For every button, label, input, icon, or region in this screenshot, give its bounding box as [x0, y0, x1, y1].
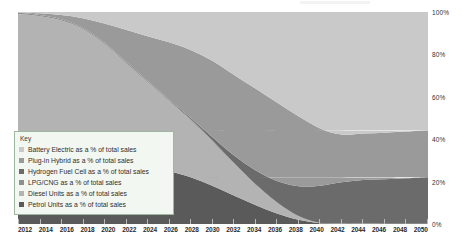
x-tickmark: [362, 219, 363, 224]
x-tickmark: [169, 219, 170, 224]
legend-swatch-icon: [19, 191, 24, 196]
x-axis-tick-2022: 2022: [122, 226, 136, 233]
legend-swatch-icon: [19, 147, 24, 152]
y-axis-tick-100: 100%: [432, 9, 449, 16]
x-tickmark: [319, 219, 320, 224]
legend-item-label: Battery Electric as a % of total sales: [28, 145, 136, 155]
x-axis-tick-2044: 2044: [351, 226, 365, 233]
x-tickmark: [61, 219, 62, 224]
y-axis: 100%80%60%40%20%0%: [430, 0, 462, 242]
legend-swatch-icon: [19, 158, 24, 163]
x-axis: 2012201420162018202020222024202620282030…: [18, 226, 428, 242]
y-axis-tick-0: 0%: [432, 221, 442, 228]
x-axis-tick-2048: 2048: [393, 226, 407, 233]
y-axis-tick-60: 60%: [432, 93, 445, 100]
x-tickmark: [255, 219, 256, 224]
x-axis-tick-2038: 2038: [289, 226, 303, 233]
x-axis-tick-2014: 2014: [39, 226, 53, 233]
legend-item-label: Hydrogen Fuel Cell as a % of total sales: [28, 167, 149, 177]
x-tickmark: [83, 219, 84, 224]
legend-item-plug_in_hybrid[interactable]: Plug-in Hybrid as a % of total sales: [19, 155, 169, 166]
x-axis-tick-2040: 2040: [310, 226, 324, 233]
legend-item-hydrogen_fuel_cell[interactable]: Hydrogen Fuel Cell as a % of total sales: [19, 166, 169, 177]
x-tickmark: [190, 219, 191, 224]
x-tickmark: [341, 219, 342, 224]
x-axis-tick-2018: 2018: [80, 226, 94, 233]
x-axis-tick-2012: 2012: [18, 226, 32, 233]
x-tickmark: [276, 219, 277, 224]
legend-item-label: Plug-in Hybrid as a % of total sales: [28, 156, 133, 166]
legend-item-lpg_cng[interactable]: LPG/CNG as a % of total sales: [19, 177, 169, 188]
legend-item-label: LPG/CNG as a % of total sales: [28, 178, 121, 188]
x-tickmark: [384, 219, 385, 224]
x-axis-tick-2050: 2050: [414, 226, 428, 233]
x-tickmark: [298, 219, 299, 224]
y-axis-tick-40: 40%: [432, 136, 445, 143]
x-tickmark: [18, 219, 19, 224]
legend-item-diesel_units[interactable]: Diesel Units as a % of total sales: [19, 188, 169, 199]
x-axis-tick-2020: 2020: [101, 226, 115, 233]
x-tickmarks: [18, 219, 428, 225]
x-axis-tick-2028: 2028: [185, 226, 199, 233]
scan-artifact: [300, 1, 370, 4]
x-tickmark: [126, 219, 127, 224]
y-axis-tick-20: 20%: [432, 178, 445, 185]
legend-item-label: Petrol Units as a % of total sales: [28, 200, 126, 210]
x-axis-tick-2032: 2032: [226, 226, 240, 233]
x-tickmark: [212, 219, 213, 224]
legend-title: Key: [20, 135, 169, 143]
x-axis-tick-2026: 2026: [164, 226, 178, 233]
legend: Key Battery Electric as a % of total sal…: [14, 131, 174, 215]
x-axis-tick-2030: 2030: [205, 226, 219, 233]
x-axis-tick-2042: 2042: [330, 226, 344, 233]
legend-swatch-icon: [19, 202, 24, 207]
legend-rows: Battery Electric as a % of total salesPl…: [19, 144, 169, 210]
x-axis-tick-2034: 2034: [247, 226, 261, 233]
x-tickmark: [405, 219, 406, 224]
legend-item-label: Diesel Units as a % of total sales: [28, 189, 127, 199]
x-axis-tick-2016: 2016: [60, 226, 74, 233]
y-axis-tick-80: 80%: [432, 51, 445, 58]
legend-item-battery_electric[interactable]: Battery Electric as a % of total sales: [19, 144, 169, 155]
legend-swatch-icon: [19, 169, 24, 174]
x-axis-tick-2046: 2046: [372, 226, 386, 233]
legend-item-petrol_units[interactable]: Petrol Units as a % of total sales: [19, 199, 169, 210]
x-tickmark: [40, 219, 41, 224]
x-tickmark: [147, 219, 148, 224]
legend-swatch-icon: [19, 180, 24, 185]
x-axis-tick-2024: 2024: [143, 226, 157, 233]
x-tickmark: [427, 219, 428, 224]
x-tickmark: [233, 219, 234, 224]
stacked-area-chart: 100%80%60%40%20%0% 201220142016201820202…: [0, 0, 462, 242]
x-tickmark: [104, 219, 105, 224]
x-axis-tick-2036: 2036: [268, 226, 282, 233]
